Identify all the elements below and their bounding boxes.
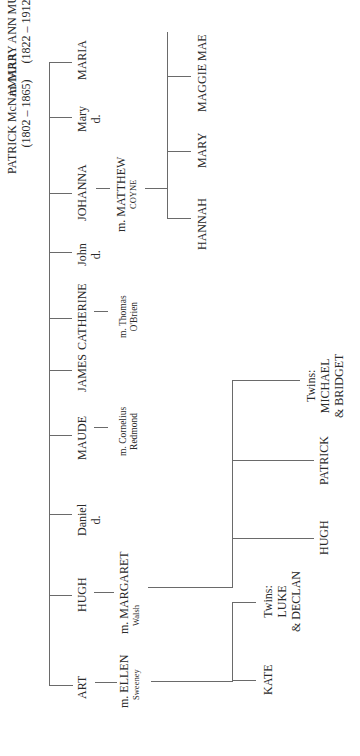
twin-name: MICHAEL (319, 354, 333, 418)
tick-patrick (232, 460, 314, 461)
spouse-hugh: m. MARGARET Walsh (118, 551, 142, 634)
grandchildren-bracket-johanna (167, 32, 168, 219)
grandchildren-bracket-hugh (232, 380, 233, 588)
twin-name: & DECLAN (290, 571, 304, 632)
child-name: John (76, 243, 90, 266)
tick-james (49, 370, 72, 371)
marriage-line-hugh (94, 592, 114, 593)
marriage-line-art (95, 682, 117, 683)
mother-years: (1822 – 1912) (20, 0, 34, 96)
spouse-surname: Sweeney (132, 655, 142, 708)
child-maria: MARIA (76, 40, 90, 80)
grandchild-maggie-mae: MAGGIE MAE (196, 34, 210, 112)
spouse-art: m. ELLEN Sweeney (118, 655, 142, 708)
tick-twins-michael-bridget (232, 380, 300, 381)
spouse-name: m. Cornelius (118, 407, 129, 456)
grandchild-twins-luke-declan: Twins: LUKE & DECLAN (262, 571, 303, 632)
child-name: Daniel (76, 504, 90, 536)
child-james: JAMES (76, 354, 90, 392)
marriage-line-johanna (96, 188, 110, 189)
grandchild-hannah: HANNAH (196, 198, 210, 250)
spouse-name: m. ELLEN (118, 655, 132, 708)
child-john: John d. (76, 243, 104, 266)
child-catherine: CATHERINE (76, 283, 90, 350)
mother-name: m. MARY ANN MURPHY (6, 0, 20, 96)
spouse-surname: Redmond (129, 407, 140, 456)
child-mary: Mary d. (76, 106, 104, 132)
deceased-note: d. (90, 243, 104, 266)
grandchild-mary: MARY (196, 133, 210, 168)
sibling-bracket (49, 62, 50, 686)
spouse-surname: O'Brien (129, 295, 140, 338)
grandchild-twins-michael-bridget: Twins: MICHAEL & BRIDGET (305, 354, 346, 418)
tick-hugh (49, 595, 72, 596)
tick-johanna (49, 193, 72, 194)
tick-maggie-mae (167, 76, 191, 77)
grandchildren-bracket-art (232, 602, 233, 682)
child-johanna: JOHANNA (76, 164, 90, 221)
family-tree: PATRICK McNAMARA (1802 – 1865) m. MARY A… (0, 0, 360, 756)
tick-maude (49, 435, 72, 436)
descent-line-art (151, 681, 233, 682)
twins-label: Twins: (305, 354, 319, 418)
deceased-note: d. (90, 504, 104, 536)
tick-mary-coyne (167, 151, 191, 152)
tick-catherine (49, 318, 72, 319)
descent-line-johanna (145, 188, 168, 189)
tick-art (49, 685, 73, 686)
child-name: Mary (76, 106, 90, 132)
root-mother: m. MARY ANN MURPHY (1822 – 1912) (6, 0, 34, 96)
grandchild-kate: KATE (262, 664, 276, 695)
tick-john (49, 252, 72, 253)
grandchild-hugh: HUGH (318, 520, 332, 555)
spouse-catherine: m. Thomas O'Brien (118, 295, 140, 338)
tick-hannah (167, 218, 191, 219)
child-hugh: HUGH (76, 577, 90, 612)
spouse-name: m. Thomas (118, 295, 129, 338)
tick-twins-luke-declan (232, 602, 256, 603)
tick-mary (49, 117, 72, 118)
child-maude: MAUDE (76, 416, 90, 460)
child-art: ART (76, 676, 90, 699)
grandchild-patrick: PATRICK (318, 436, 332, 485)
twin-name: LUKE (276, 571, 290, 632)
marriage-line-maude (94, 427, 108, 428)
tick-daniel (49, 514, 72, 515)
spouse-maude: m. Cornelius Redmond (118, 407, 140, 456)
spouse-name: m. MARGARET (118, 551, 132, 634)
twins-label: Twins: (262, 571, 276, 632)
tick-maria (49, 62, 72, 63)
descent-line-hugh (148, 587, 233, 588)
spouse-johanna: m. MATTHEW COYNE (115, 157, 139, 232)
spouse-surname: COYNE (129, 157, 139, 232)
marriage-line-catherine (94, 311, 108, 312)
deceased-note: d. (90, 106, 104, 132)
spouse-name: m. MATTHEW (115, 157, 129, 232)
spouse-surname: Walsh (132, 551, 142, 634)
twin-name: & BRIDGET (333, 354, 347, 418)
tick-hugh-jr (232, 538, 314, 539)
child-daniel: Daniel d. (76, 504, 104, 536)
tick-kate (232, 680, 256, 681)
